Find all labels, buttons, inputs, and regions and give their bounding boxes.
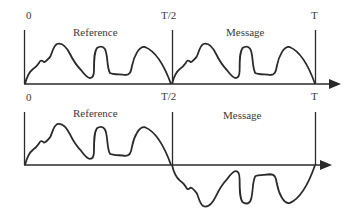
mid-tick-label-half: T/2 <box>161 91 176 102</box>
top-message-waveform <box>172 44 315 84</box>
top-reference-label: Reference <box>73 27 118 38</box>
top-message-label: Message <box>226 27 265 38</box>
top-tick-label-half: T/2 <box>161 10 176 21</box>
bottom-message-waveform-inverted <box>172 165 315 207</box>
bottom-axis-arrow-icon <box>320 160 332 170</box>
mid-tick-label-0: 0 <box>26 92 32 103</box>
top-tick-label-T: T <box>311 10 318 21</box>
bottom-reference-label: Reference <box>73 108 118 119</box>
mid-tick-label-T: T <box>311 91 318 102</box>
bottom-reference-waveform <box>25 124 171 165</box>
top-axis-arrow-icon <box>329 79 341 89</box>
bottom-panel <box>24 112 332 207</box>
top-tick-label-0: 0 <box>26 10 32 21</box>
bottom-message-label: Message <box>223 110 262 121</box>
top-reference-waveform <box>25 44 171 84</box>
top-panel <box>24 30 341 89</box>
waveform-diagram <box>0 0 348 220</box>
